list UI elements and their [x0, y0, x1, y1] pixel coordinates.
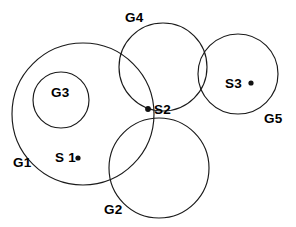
- point-dot-s2: [145, 106, 151, 112]
- set-circle-g2: [109, 118, 209, 218]
- set-label-g5: G5: [264, 111, 283, 126]
- point-label-s3: S3: [225, 76, 242, 91]
- set-label-g3: G3: [51, 85, 70, 100]
- set-label-g1: G1: [13, 155, 32, 170]
- set-label-g2: G2: [104, 202, 123, 217]
- set-diagram-svg: G1 G3 G4 G2 G5 S 1 S2 S3: [0, 0, 296, 227]
- set-label-g4: G4: [125, 10, 144, 25]
- set-circle-g5: [198, 34, 278, 114]
- set-diagram-canvas: G1 G3 G4 G2 G5 S 1 S2 S3: [0, 0, 296, 227]
- point-dot-s1: [75, 155, 80, 160]
- set-circle-g3: [33, 72, 89, 128]
- set-circle-g4: [119, 23, 207, 111]
- point-label-s1: S 1: [55, 150, 76, 165]
- point-dot-s3: [248, 80, 253, 85]
- set-circle-g1: [12, 43, 154, 185]
- point-label-s2: S2: [154, 102, 171, 117]
